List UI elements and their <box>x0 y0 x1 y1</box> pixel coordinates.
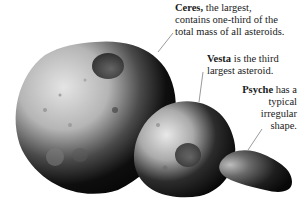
vesta-leader-line <box>199 72 203 102</box>
psyche-caption: Psyche has a typical irregular shape. <box>235 84 297 132</box>
psyche-asteroid <box>219 150 292 192</box>
ceres-leader-line <box>158 33 173 52</box>
ceres-caption: Ceres, the largest, contains one-third o… <box>175 2 299 38</box>
vesta-caption-name: Vesta <box>207 53 231 64</box>
psyche-caption-name: Psyche <box>242 84 273 95</box>
vesta-caption: Vesta is the third largest asteroid. <box>207 53 299 77</box>
psyche-leader-line <box>248 129 262 150</box>
ceres-caption-name: Ceres, <box>175 2 203 13</box>
